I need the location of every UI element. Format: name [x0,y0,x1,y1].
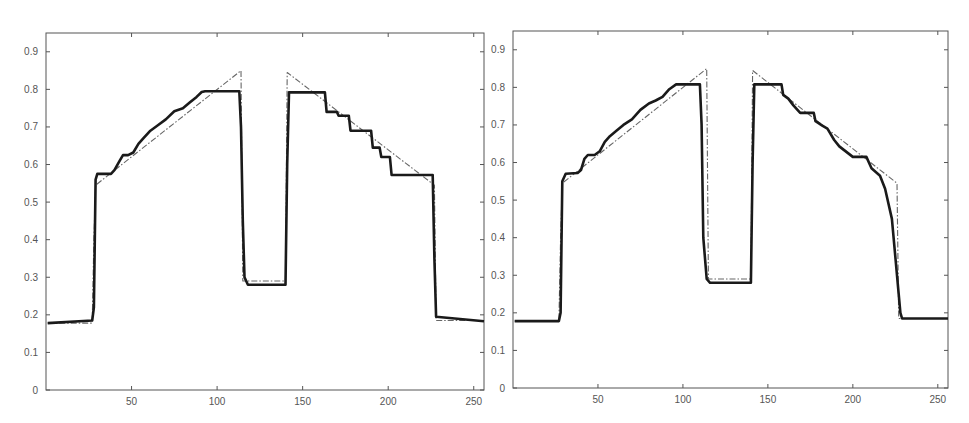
x-tick-label: 100 [209,396,226,407]
y-tick-label: 0.4 [24,234,38,245]
y-tick-label: 0.6 [491,157,505,168]
figure: 00.10.20.30.40.50.60.70.80.9501001502002… [0,0,969,423]
x-tick-label: 200 [380,396,397,407]
reconstruction-line [48,91,484,323]
y-tick-label: 0.3 [24,272,38,283]
x-tick-label: 150 [760,394,777,405]
x-tick-label: 150 [294,396,311,407]
axes-box [46,33,484,390]
y-tick-label: 0.7 [491,119,505,130]
y-tick-label: 0 [32,385,38,396]
y-tick-label: 0.9 [24,46,38,57]
y-tick-label: 0.2 [491,307,505,318]
y-tick-label: 0.5 [24,197,38,208]
chart-panel-left: 00.10.20.30.40.50.60.70.80.9501001502002… [24,33,484,407]
y-tick-label: 0.8 [491,82,505,93]
y-tick-label: 0.5 [491,195,505,206]
y-tick-label: 0.4 [491,232,505,243]
x-tick-label: 100 [675,394,692,405]
y-tick-label: 0.3 [491,270,505,281]
reconstruction-line [515,84,948,321]
x-tick-label: 50 [126,396,138,407]
chart-panel-right: 00.10.20.30.40.50.60.70.80.9501001502002… [491,31,948,405]
figure-canvas: 00.10.20.30.40.50.60.70.80.9501001502002… [0,0,969,423]
axes-box [513,31,948,388]
x-tick-label: 250 [465,396,482,407]
y-tick-label: 0.7 [24,121,38,132]
x-tick-label: 200 [845,394,862,405]
y-tick-label: 0.8 [24,84,38,95]
y-tick-label: 0.2 [24,309,38,320]
y-tick-label: 0.6 [24,159,38,170]
y-tick-label: 0.9 [491,44,505,55]
y-tick-label: 0.1 [24,347,38,358]
x-tick-label: 50 [592,394,604,405]
y-tick-label: 0 [499,383,505,394]
y-tick-label: 0.1 [491,345,505,356]
x-tick-label: 250 [929,394,946,405]
